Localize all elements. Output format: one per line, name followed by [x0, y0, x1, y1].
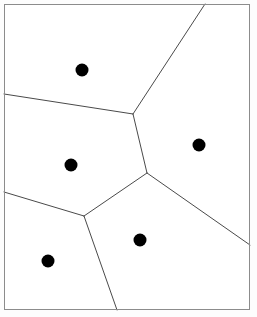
plot-area-background — [4, 4, 250, 310]
site-3-point — [65, 159, 78, 172]
voronoi-figure — [0, 0, 257, 317]
site-5-point — [42, 255, 55, 268]
site-4-point — [134, 234, 147, 247]
site-2-point — [193, 139, 206, 152]
voronoi-canvas — [0, 0, 257, 317]
site-1-point — [76, 64, 89, 77]
